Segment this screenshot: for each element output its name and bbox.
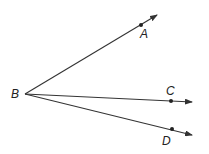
point-c-dot <box>169 99 173 103</box>
diagram-svg: B ACD <box>0 0 209 154</box>
ray-ba <box>25 15 157 94</box>
point-d-dot <box>170 127 174 131</box>
point-label-d: D <box>162 134 171 148</box>
ray-bd <box>25 94 192 135</box>
vertex-label-b: B <box>11 87 19 101</box>
angle-diagram: B ACD <box>0 0 209 154</box>
point-label-c: C <box>166 84 175 98</box>
point-label-a: A <box>139 27 148 41</box>
